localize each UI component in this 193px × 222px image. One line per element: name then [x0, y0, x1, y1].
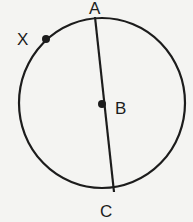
label-b: B — [115, 99, 126, 118]
label-a: A — [89, 0, 101, 18]
label-c: C — [100, 202, 112, 221]
circle-diagram: A X B C — [0, 0, 193, 222]
label-x: X — [17, 30, 28, 49]
point-b-dot — [98, 100, 106, 108]
point-x-dot — [42, 35, 50, 43]
